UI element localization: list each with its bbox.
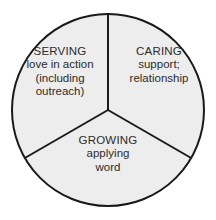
diagram-canvas: SERVING love in action (including outrea…	[0, 0, 216, 220]
three-sector-circle-graphic	[0, 0, 216, 220]
